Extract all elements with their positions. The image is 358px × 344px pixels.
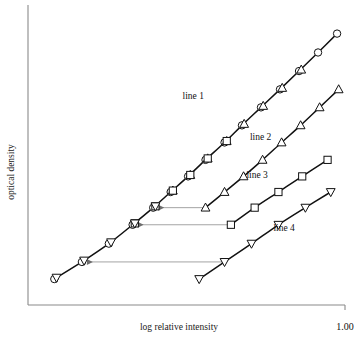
data-point-square: [275, 188, 282, 195]
series-label-line-1: line 1: [183, 91, 205, 101]
data-point-circle: [314, 49, 321, 56]
characteristic-curve-chart: line 1 line 2 line 3 line 4 log relative…: [0, 0, 358, 344]
x-axis-label: log relative intensity: [140, 322, 218, 332]
y-axis-label: optical density: [6, 144, 16, 200]
superimposed-point-square: [204, 155, 211, 162]
series-label-line-2: line 2: [250, 132, 272, 142]
data-point-square: [324, 156, 331, 163]
superimposed-point-square: [223, 137, 230, 144]
series-label-line-4: line 4: [273, 223, 295, 233]
chart-background: [0, 0, 358, 344]
series-label-line-3: line 3: [246, 170, 268, 180]
data-point-circle: [333, 30, 340, 37]
superimposed-point-square: [187, 171, 194, 178]
data-point-square: [299, 173, 306, 180]
data-point-square: [227, 221, 234, 228]
chart-figure: line 1 line 2 line 3 line 4 log relative…: [0, 0, 358, 344]
x-axis-tick-label: 1.00: [336, 321, 354, 332]
superimposed-point-square: [169, 187, 176, 194]
data-point-square: [251, 204, 258, 211]
